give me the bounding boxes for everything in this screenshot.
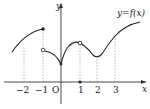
origin-label: O	[52, 85, 59, 95]
guide-lines	[24, 29, 115, 82]
closed-dot-x-1	[41, 27, 45, 31]
tick-label-2: 2	[95, 85, 101, 95]
x-axis-label: x	[142, 84, 147, 94]
open-dot-x1	[78, 41, 82, 45]
closed-dot-x1-axis	[78, 80, 81, 83]
curve-middle-branch	[45, 22, 140, 64]
cusp-dot-x0	[60, 63, 63, 66]
function-graph: y x y=f(x) O −2 −1 1 2 3	[0, 0, 150, 109]
tick-label-1: 1	[78, 85, 84, 95]
curve-label: y=f(x)	[116, 8, 146, 18]
open-dot-x-1	[41, 48, 45, 52]
graph-svg: y x y=f(x) O −2 −1 1 2 3	[0, 0, 150, 109]
y-axis-label: y	[55, 1, 62, 11]
tick-label-neg1: −1	[35, 85, 48, 95]
tick-label-neg2: −2	[16, 85, 29, 95]
tick-label-3: 3	[113, 85, 119, 95]
curve-left-branch	[12, 29, 43, 52]
